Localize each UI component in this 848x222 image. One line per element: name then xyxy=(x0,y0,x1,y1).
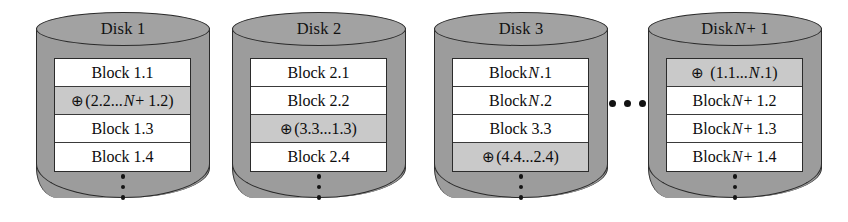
block-label-prefix: (1.1... xyxy=(710,64,747,82)
xor-icon: ⊕ xyxy=(280,120,294,138)
block-label-prefix: Block 1.1 xyxy=(91,64,153,82)
disk-array-diagram: Disk 1Block 1.1⊕(2.2...N + 1.2)Block 1.3… xyxy=(0,0,848,222)
parity-block-row: ⊕(1.1...N.1) xyxy=(667,59,802,87)
disk-title: Disk 2 xyxy=(232,12,406,46)
ellipsis-dot xyxy=(609,100,616,107)
ellipsis-dot xyxy=(624,100,631,107)
disk-title-variable: N xyxy=(733,19,746,39)
block-label-prefix: (3.3...1.3) xyxy=(294,120,357,138)
block-label-prefix: Block xyxy=(693,148,731,166)
block-label-suffix: .1) xyxy=(760,64,777,82)
block-label-suffix: + 1.2) xyxy=(135,92,173,110)
block-label-prefix: Block 1.4 xyxy=(91,148,153,166)
block-label-prefix: Block xyxy=(693,92,731,110)
horizontal-ellipsis xyxy=(609,100,646,107)
block-label-prefix: Block xyxy=(693,120,731,138)
data-block-row: Block N + 1.3 xyxy=(667,115,802,143)
ellipsis-dot xyxy=(317,185,322,190)
disk-title-prefix: Disk 3 xyxy=(499,19,544,39)
xor-icon: ⊕ xyxy=(71,92,85,110)
vertical-ellipsis xyxy=(648,174,822,200)
block-table: Block 2.1Block 2.2⊕(3.3...1.3)Block 2.4 xyxy=(250,58,387,172)
ellipsis-dot xyxy=(733,195,738,200)
xor-icon: ⊕ xyxy=(482,148,496,166)
disk-title: Disk N + 1 xyxy=(648,12,822,46)
data-block-row: Block N + 1.4 xyxy=(667,143,802,171)
ellipsis-dot xyxy=(519,185,524,190)
disk-title: Disk 1 xyxy=(36,12,210,46)
block-label-prefix: Block 2.1 xyxy=(287,64,349,82)
data-block-row: Block N.2 xyxy=(453,87,588,115)
ellipsis-dot xyxy=(519,174,524,179)
block-label-prefix: (2.2... xyxy=(85,92,122,110)
disk-cylinder-disk-n-plus-1: Disk N + 1⊕(1.1...N.1)Block N + 1.2Block… xyxy=(648,12,822,198)
block-label-prefix: Block 2.2 xyxy=(287,92,349,110)
ellipsis-dot xyxy=(733,185,738,190)
block-label-variable: N xyxy=(123,92,136,110)
block-label-prefix: (4.4...2.4) xyxy=(496,148,559,166)
data-block-row: Block 3.3 xyxy=(453,115,588,143)
ellipsis-dot xyxy=(639,100,646,107)
block-label-suffix: .2 xyxy=(540,92,552,110)
ellipsis-dot xyxy=(121,185,126,190)
disk-cylinder-disk-1: Disk 1Block 1.1⊕(2.2...N + 1.2)Block 1.3… xyxy=(36,12,210,198)
block-label-variable: N xyxy=(731,120,744,138)
vertical-ellipsis xyxy=(36,174,210,200)
parity-block-row: ⊕(4.4...2.4) xyxy=(453,143,588,171)
block-label-suffix: .1 xyxy=(540,64,552,82)
block-label-variable: N xyxy=(731,148,744,166)
disk-title-prefix: Disk 2 xyxy=(297,19,342,39)
data-block-row: Block 2.4 xyxy=(251,143,386,171)
block-table: ⊕(1.1...N.1)Block N + 1.2Block N + 1.3Bl… xyxy=(666,58,803,172)
disk-title: Disk 3 xyxy=(434,12,608,46)
data-block-row: Block 2.2 xyxy=(251,87,386,115)
block-label-variable: N xyxy=(748,64,761,82)
data-block-row: Block 2.1 xyxy=(251,59,386,87)
block-table: Block N.1Block N.2Block 3.3⊕(4.4...2.4) xyxy=(452,58,589,172)
vertical-ellipsis xyxy=(434,174,608,200)
block-label-prefix: Block 2.4 xyxy=(287,148,349,166)
data-block-row: Block N + 1.2 xyxy=(667,87,802,115)
block-label-suffix: + 1.2 xyxy=(743,92,776,110)
block-label-prefix: Block xyxy=(489,92,527,110)
block-label-variable: N xyxy=(527,64,540,82)
disk-title-prefix: Disk 1 xyxy=(101,19,146,39)
disk-title-suffix: + 1 xyxy=(746,19,768,39)
parity-block-row: ⊕(3.3...1.3) xyxy=(251,115,386,143)
ellipsis-dot xyxy=(317,195,322,200)
block-label-suffix: + 1.3 xyxy=(743,120,776,138)
data-block-row: Block 1.3 xyxy=(55,115,190,143)
block-label-prefix: Block 1.3 xyxy=(91,120,153,138)
disk-title-prefix: Disk xyxy=(701,19,733,39)
disk-cylinder-disk-3: Disk 3Block N.1Block N.2Block 3.3⊕(4.4..… xyxy=(434,12,608,198)
data-block-row: Block 1.4 xyxy=(55,143,190,171)
ellipsis-dot xyxy=(519,195,524,200)
xor-icon: ⊕ xyxy=(691,64,710,82)
vertical-ellipsis xyxy=(232,174,406,200)
block-label-prefix: Block 3.3 xyxy=(489,120,551,138)
block-label-suffix: + 1.4 xyxy=(743,148,776,166)
disk-cylinder-disk-2: Disk 2Block 2.1Block 2.2⊕(3.3...1.3)Bloc… xyxy=(232,12,406,198)
data-block-row: Block N.1 xyxy=(453,59,588,87)
block-table: Block 1.1⊕(2.2...N + 1.2)Block 1.3Block … xyxy=(54,58,191,172)
ellipsis-dot xyxy=(121,195,126,200)
parity-block-row: ⊕(2.2...N + 1.2) xyxy=(55,87,190,115)
ellipsis-dot xyxy=(121,174,126,179)
block-label-prefix: Block xyxy=(489,64,527,82)
data-block-row: Block 1.1 xyxy=(55,59,190,87)
ellipsis-dot xyxy=(733,174,738,179)
block-label-variable: N xyxy=(527,92,540,110)
ellipsis-dot xyxy=(317,174,322,179)
block-label-variable: N xyxy=(731,92,744,110)
